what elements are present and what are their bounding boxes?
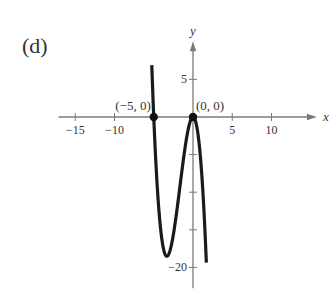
axes <box>59 41 317 288</box>
y-tick-label: −20 <box>168 260 187 274</box>
x-tick-label: 10 <box>266 123 278 137</box>
point-annotation: (0, 0) <box>196 98 224 113</box>
y-axis-arrow <box>190 41 196 51</box>
x-tick-label: −15 <box>66 123 85 137</box>
point-annotation: (−5, 0) <box>115 98 151 113</box>
y-axis-label: y <box>188 23 196 38</box>
labels-layer: xy−15−105105−20(−5, 0)(0, 0) <box>66 23 329 274</box>
plot: xy−15−105105−20(−5, 0)(0, 0) <box>0 0 336 295</box>
intercept-point <box>189 113 197 121</box>
y-tick-label: 5 <box>181 72 187 86</box>
x-tick-label: 5 <box>229 123 235 137</box>
x-tick-label: −10 <box>105 123 124 137</box>
function-curve <box>152 65 207 262</box>
x-axis-arrow <box>307 114 317 120</box>
curve-layer <box>152 65 207 262</box>
x-axis-label: x <box>322 109 329 124</box>
intercept-point <box>150 113 158 121</box>
